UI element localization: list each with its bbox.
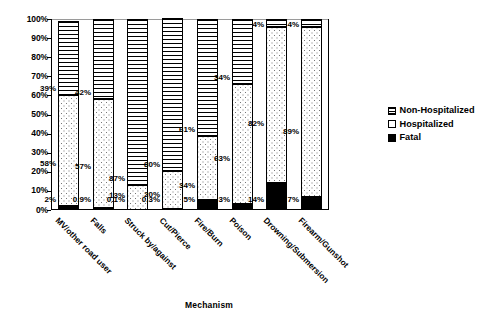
bar-value-label: 7% (265, 196, 299, 204)
bar-value-label: 34% (196, 74, 230, 82)
bar-column (301, 19, 322, 210)
x-axis-category-label: Poison (228, 216, 253, 241)
y-axis-tick-label: 10% (8, 186, 48, 195)
bar-segment-non-hospitalized (58, 21, 79, 95)
x-axis-title: Mechanism (185, 300, 233, 310)
bar-value-label: 80% (126, 161, 160, 169)
bar-value-label: 5% (161, 196, 195, 204)
legend-label-fatal: Fatal (400, 131, 421, 145)
y-axis-tick-label: 50% (8, 110, 48, 119)
y-axis-tick-label: 40% (8, 129, 48, 138)
bar-segment-fatal (58, 206, 79, 210)
bar-value-label: 42% (57, 89, 91, 97)
y-axis-tick-mark (47, 210, 51, 211)
y-axis-tick-label: 0% (8, 206, 48, 215)
y-axis-tick-label: 100% (8, 15, 48, 24)
bar-value-label: 0.9% (57, 196, 91, 204)
bar-value-label: 61% (161, 126, 195, 134)
y-axis-tick-mark (47, 153, 51, 154)
bar-value-label: 87% (91, 175, 125, 183)
bar-value-label: 2% (22, 196, 56, 204)
y-axis-tick-mark (47, 19, 51, 20)
bar-column (127, 19, 148, 210)
bar-value-label: 3% (196, 196, 230, 204)
y-axis-tick-mark (47, 57, 51, 58)
bar-segment-non-hospitalized (301, 19, 322, 27)
bar-segment-hospitalized (301, 27, 322, 197)
bar-value-label: 4% (265, 21, 299, 29)
bar-segment-hospitalized (58, 95, 79, 206)
legend-item-hospitalized[interactable]: Hospitalized (388, 118, 475, 132)
bar-column (232, 19, 253, 210)
bar-value-label: 4% (230, 21, 264, 29)
y-axis-tick-mark (47, 191, 51, 192)
bar-segment-fatal (301, 197, 322, 210)
bar-value-label: 89% (265, 128, 299, 136)
bar-segment-hospitalized (232, 84, 253, 204)
bar-segment-fatal (232, 204, 253, 210)
y-axis-tick-label: 20% (8, 167, 48, 176)
bar-column (266, 19, 287, 210)
bar-segment-non-hospitalized (93, 19, 114, 99)
x-axis-category-label: Falls (89, 216, 108, 235)
y-axis-tick-label: 90% (8, 34, 48, 43)
legend-item-non-hospitalized[interactable]: Non-Hospitalized (388, 104, 475, 118)
y-axis-tick-label: 30% (8, 148, 48, 157)
bar-value-label: 0.1% (91, 196, 125, 204)
y-axis-tick-mark (47, 76, 51, 77)
x-axis-category-label: Cut/Pierce (158, 216, 193, 251)
legend-item-fatal[interactable]: Fatal (388, 131, 475, 145)
legend-label-non-hospitalized: Non-Hospitalized (400, 104, 475, 118)
bar-value-label: 14% (230, 196, 264, 204)
y-axis-tick-mark (47, 38, 51, 39)
bar-value-label: 82% (230, 120, 264, 128)
y-axis-tick-mark (47, 115, 51, 116)
legend-swatch-non-hospitalized-icon (388, 107, 396, 115)
bar-value-label: 39% (22, 85, 56, 93)
bar-value-label: 63% (196, 155, 230, 163)
x-axis-category-label: Drowning/Submersion (262, 216, 330, 284)
y-axis-tick-mark (47, 95, 51, 96)
y-axis-tick-label: 70% (8, 72, 48, 81)
bar-column (197, 19, 218, 210)
bar-value-label: 34% (161, 182, 195, 190)
legend-swatch-hospitalized-icon (388, 120, 396, 128)
x-axis-category-label: Fire/Burn (193, 216, 225, 248)
bar-value-label: 0.3% (126, 196, 160, 204)
y-axis-tick-mark (47, 172, 51, 173)
bar-segment-non-hospitalized (162, 18, 183, 171)
chart-legend: Non-Hospitalized Hospitalized Fatal (388, 104, 475, 145)
bar-segment-hospitalized (197, 136, 218, 201)
bar-column (58, 19, 79, 210)
legend-label-hospitalized: Hospitalized (400, 118, 454, 132)
bar-segment-fatal (93, 208, 114, 210)
y-axis-tick-mark (47, 134, 51, 135)
bar-segment-hospitalized (266, 27, 287, 184)
legend-swatch-fatal-icon (388, 134, 396, 142)
bar-value-label: 58% (22, 160, 56, 168)
y-axis-tick-label: 80% (8, 53, 48, 62)
bar-value-label: 57% (57, 163, 91, 171)
stacked-bar-chart: 100%90%80%70%60%50%40%30%20%10%0% MV/oth… (0, 0, 498, 322)
